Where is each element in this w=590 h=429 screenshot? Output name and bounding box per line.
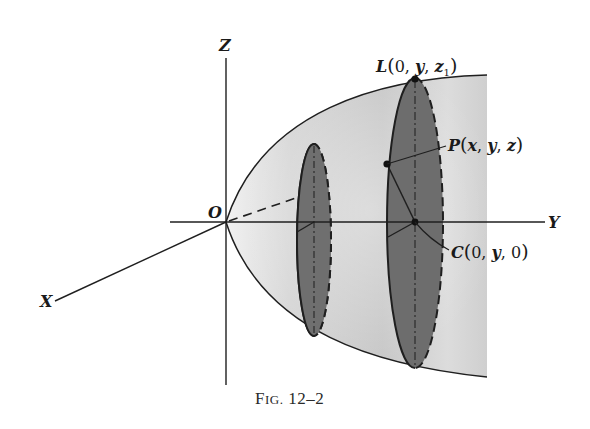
x-axis bbox=[55, 222, 226, 301]
label-C: C(0, y, 0) bbox=[451, 240, 529, 262]
z-axis-label: Z bbox=[218, 36, 232, 55]
figure-caption: FIG. 12–2 bbox=[255, 389, 324, 408]
label-L: L(0, y, z1) bbox=[375, 54, 457, 78]
point-L bbox=[411, 75, 418, 82]
paraboloid-surface bbox=[226, 75, 487, 377]
origin-label: O bbox=[208, 203, 222, 222]
paraboloid-figure: Z Y X O L(0, y, z1) P(x, y, z) C(0, y, 0… bbox=[0, 0, 590, 429]
cross-section-disk-1 bbox=[297, 144, 331, 336]
y-axis-label: Y bbox=[548, 213, 561, 232]
label-P: P(x, y, z) bbox=[447, 133, 523, 155]
x-axis-label: X bbox=[39, 292, 53, 311]
